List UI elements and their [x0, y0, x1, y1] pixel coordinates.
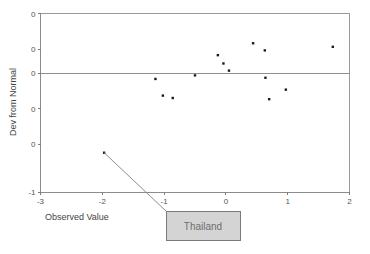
data-point — [332, 46, 334, 48]
data-point — [194, 74, 196, 76]
y-axis-title: Dev from Normal — [8, 68, 18, 136]
plot-frame — [41, 14, 350, 193]
x-tick-label: 2 — [347, 197, 352, 206]
detrended-qq-chart: 00000-1 -3-2-1012 Observed Value Dev fro… — [0, 0, 370, 254]
data-point — [252, 42, 254, 44]
data-points — [103, 42, 334, 154]
thailand-callout[interactable]: Thailand — [167, 212, 241, 241]
data-point — [285, 88, 287, 90]
data-point — [268, 98, 270, 100]
data-point — [217, 54, 219, 56]
y-tick-label: 0 — [31, 105, 36, 114]
x-tick-label: 1 — [285, 197, 290, 206]
data-point — [172, 97, 174, 99]
x-tick-label: 0 — [224, 197, 229, 206]
data-point — [154, 78, 156, 80]
x-tick-label: -1 — [161, 197, 169, 206]
y-tick-label: 0 — [31, 140, 36, 149]
callout-label: Thailand — [184, 221, 222, 232]
data-point — [264, 77, 266, 79]
data-point — [162, 94, 164, 96]
x-axis-title: Observed Value — [45, 212, 109, 222]
callout-leader-line — [104, 153, 166, 212]
y-tick-label: 0 — [31, 10, 36, 19]
y-tick-label: 0 — [31, 45, 36, 54]
x-axis: -3-2-1012 — [37, 192, 352, 206]
x-tick-label: -2 — [99, 197, 107, 206]
x-tick-label: -3 — [37, 197, 45, 206]
y-tick-label: 0 — [31, 69, 36, 78]
plot-canvas: 00000-1 -3-2-1012 Observed Value Dev fro… — [0, 0, 370, 254]
data-point — [222, 62, 224, 64]
y-tick-label: -1 — [28, 188, 36, 197]
y-axis: 00000-1 — [28, 10, 40, 198]
data-point — [228, 69, 230, 71]
data-point — [264, 49, 266, 51]
